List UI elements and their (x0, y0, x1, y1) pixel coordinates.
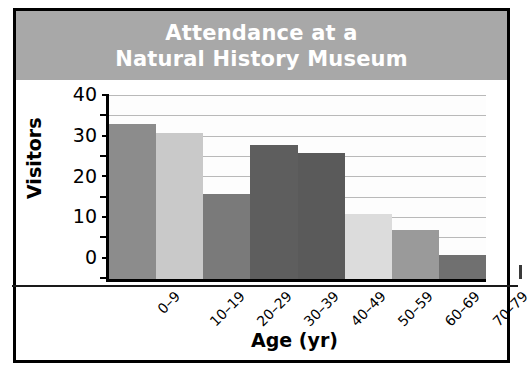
gridline (109, 115, 486, 116)
x-axis-tick-label: 60–69 (442, 288, 483, 329)
bar (156, 133, 203, 279)
footer-divider-rule (12, 285, 518, 287)
chart-title-line-1: Attendance at a (165, 20, 357, 46)
gridline (109, 95, 486, 96)
bar (345, 214, 392, 279)
bar (109, 124, 156, 279)
y-axis-minor-tick (102, 135, 109, 137)
x-axis-tick-label: 70–79 (489, 288, 530, 329)
chart-title-banner: Attendance at a Natural History Museum (16, 11, 507, 80)
y-axis-tick-label: 40 (73, 83, 97, 105)
chart-figure: Attendance at a Natural History Museum V… (13, 8, 510, 363)
y-axis-tick-label: 10 (73, 205, 97, 227)
y-axis-tick (100, 155, 109, 157)
bar (298, 153, 345, 279)
x-axis-tick-label: 20–29 (253, 288, 294, 329)
x-axis-tick-label: 0–9 (154, 288, 183, 317)
y-axis-tick-label: 30 (73, 124, 97, 146)
bar (439, 255, 486, 279)
y-axis-tick-label: 0 (85, 246, 97, 268)
y-axis-tick-label: 20 (73, 165, 97, 187)
x-axis-tick-label: 40–49 (348, 288, 389, 329)
plot-wrapper: Visitors 010203040 0–910–1920–2930–3940–… (16, 80, 507, 360)
y-axis-minor-tick (102, 175, 109, 177)
y-axis-tick (100, 196, 109, 198)
bar (392, 230, 439, 279)
bar (203, 194, 250, 279)
bar (250, 145, 297, 279)
y-axis-minor-tick (102, 257, 109, 259)
plot-area: 010203040 0–910–1920–2930–3940–4950–5960… (106, 96, 486, 282)
chart-title-line-2: Natural History Museum (115, 46, 408, 72)
side-margin-mark (519, 265, 522, 279)
y-axis-title: Visitors (23, 175, 45, 199)
x-axis-tick-label: 30–39 (301, 288, 342, 329)
x-axis-tick-label: 50–59 (395, 288, 436, 329)
x-axis-title: Age (yr) (106, 329, 483, 351)
y-axis-minor-tick (102, 216, 109, 218)
x-axis-tick-label: 10–19 (206, 288, 247, 329)
y-axis-tick (100, 277, 109, 279)
y-axis-tick (100, 236, 109, 238)
y-axis-minor-tick (102, 94, 109, 96)
y-axis-tick (100, 114, 109, 116)
